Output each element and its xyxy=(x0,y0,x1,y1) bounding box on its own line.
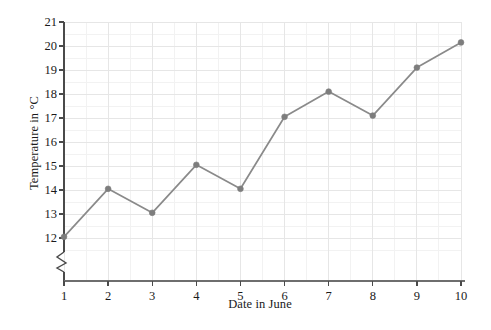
x-tick-label: 5 xyxy=(226,290,254,302)
axis-lines xyxy=(57,22,465,281)
x-tick-label: 1 xyxy=(50,290,78,302)
plot-area xyxy=(0,0,491,330)
y-tick-label: 18 xyxy=(33,88,57,100)
y-tick-label: 19 xyxy=(33,64,57,76)
y-tick-label: 12 xyxy=(33,232,57,244)
x-tick-label: 3 xyxy=(138,290,166,302)
y-tick-label: 13 xyxy=(33,208,57,220)
y-tick-label: 21 xyxy=(33,16,57,28)
y-tick-label: 17 xyxy=(33,112,57,124)
x-tick-label: 10 xyxy=(447,290,475,302)
y-tick-label: 15 xyxy=(33,160,57,172)
x-tick-label: 8 xyxy=(359,290,387,302)
y-tick-label: 14 xyxy=(33,184,57,196)
x-tick-label: 2 xyxy=(94,290,122,302)
line-chart: Temperature in °C Date in June 121314151… xyxy=(0,0,491,330)
y-tick-label: 16 xyxy=(33,136,57,148)
x-tick-label: 7 xyxy=(315,290,343,302)
x-tick-label: 9 xyxy=(403,290,431,302)
x-tick-label: 4 xyxy=(182,290,210,302)
x-tick-label: 6 xyxy=(271,290,299,302)
y-tick-label: 20 xyxy=(33,40,57,52)
